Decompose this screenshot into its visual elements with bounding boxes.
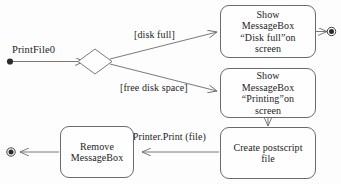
action-printing-line3: “Printing”on: [242, 93, 295, 105]
action-disk-full-line1: Show: [240, 9, 295, 21]
initial-node: [7, 58, 13, 64]
action-create-postscript-file[interactable]: Create postscript file: [220, 127, 316, 179]
decision-diamond: [78, 49, 112, 74]
action-show-messagebox-printing[interactable]: Show MessageBox “Printing”on screen: [220, 68, 316, 118]
action-show-messagebox-disk-full[interactable]: Show MessageBox “Disk full”on screen: [220, 5, 316, 58]
guard-label-disk-full: [disk full]: [134, 29, 175, 40]
action-remove-line2: MessageBox: [71, 152, 124, 164]
action-printing-line2: MessageBox: [242, 82, 295, 94]
guard-label-free-disk-space: [free disk space]: [120, 82, 188, 93]
action-disk-full-line4: screen: [240, 43, 295, 55]
action-printing-line4: screen: [242, 105, 295, 117]
action-printing-line1: Show: [242, 70, 295, 82]
action-postscript-line1: Create postscript: [233, 142, 302, 154]
action-postscript-line2: file: [233, 153, 302, 165]
activity-diagram-canvas: PrintFile0 [disk full] [free disk space]…: [0, 0, 341, 184]
start-transition-label: PrintFile0: [12, 44, 55, 55]
action-remove-line1: Remove: [71, 141, 124, 153]
final-node-right-core: [329, 29, 334, 34]
final-node-left-core: [9, 150, 14, 155]
action-remove-messagebox[interactable]: Remove MessageBox: [60, 126, 134, 178]
transition-label-printer-print: ^Printer.Print (file): [128, 131, 206, 142]
action-disk-full-line3: “Disk full”on: [240, 32, 295, 44]
action-disk-full-line2: MessageBox: [240, 20, 295, 32]
